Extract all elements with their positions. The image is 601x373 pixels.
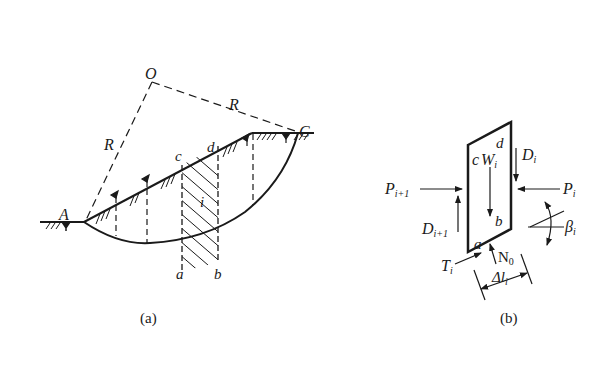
normal-reaction-arrow	[490, 244, 496, 264]
label-d: d	[207, 139, 215, 155]
ground-hatch-left	[46, 223, 60, 229]
label-O: O	[145, 65, 157, 82]
label-delta-l: Δli	[491, 269, 508, 287]
caption-a: (a)	[140, 310, 157, 327]
corner-label-c: c	[472, 151, 479, 168]
corner-label-b: b	[495, 213, 503, 229]
shear-resistance-arrow	[455, 253, 481, 264]
label-c: c	[175, 148, 182, 164]
label-C: C	[299, 123, 310, 140]
label-P-i: Pi	[562, 180, 576, 199]
caption-b: (b)	[500, 310, 518, 327]
radius-line-right	[152, 82, 298, 132]
label-b: b	[214, 266, 222, 282]
radius-line-left	[86, 82, 152, 220]
slope-stability-diagram: O A C R R c d a b i (a)	[0, 0, 601, 373]
ground-symbol-a	[62, 222, 70, 231]
figure-b: c d a b Wi Di Di+1 Pi+1 Pi Ti N0 βi Δli …	[384, 122, 576, 327]
label-D-i1: Di+1	[421, 220, 448, 239]
label-A: A	[58, 206, 69, 223]
angle-beta	[528, 202, 564, 245]
label-P-i1: Pi+1	[384, 180, 409, 199]
corner-label-a: a	[474, 236, 482, 252]
label-R-right: R	[228, 96, 239, 113]
label-slice-i: i	[200, 194, 204, 210]
label-T-i: Ti	[441, 257, 453, 276]
label-R-left: R	[103, 136, 114, 153]
label-D-i: Di	[521, 146, 537, 165]
corner-label-d: d	[496, 135, 504, 151]
label-N0: N0	[498, 249, 514, 267]
figure-a: O A C R R c d a b i (a)	[40, 65, 314, 327]
label-W: Wi	[481, 151, 497, 170]
label-a: a	[176, 266, 184, 282]
label-beta: βi	[564, 218, 576, 237]
